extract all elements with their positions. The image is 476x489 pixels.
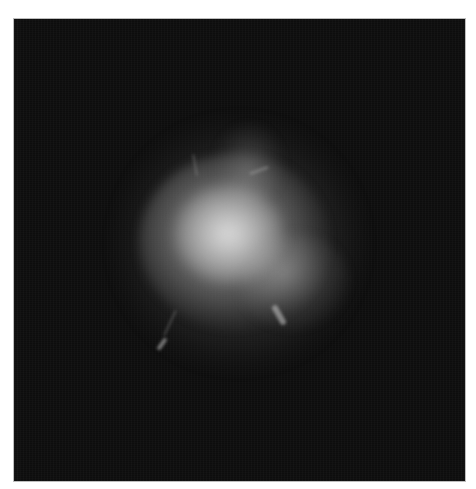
background-noise xyxy=(14,19,465,481)
image-frame xyxy=(13,18,466,482)
